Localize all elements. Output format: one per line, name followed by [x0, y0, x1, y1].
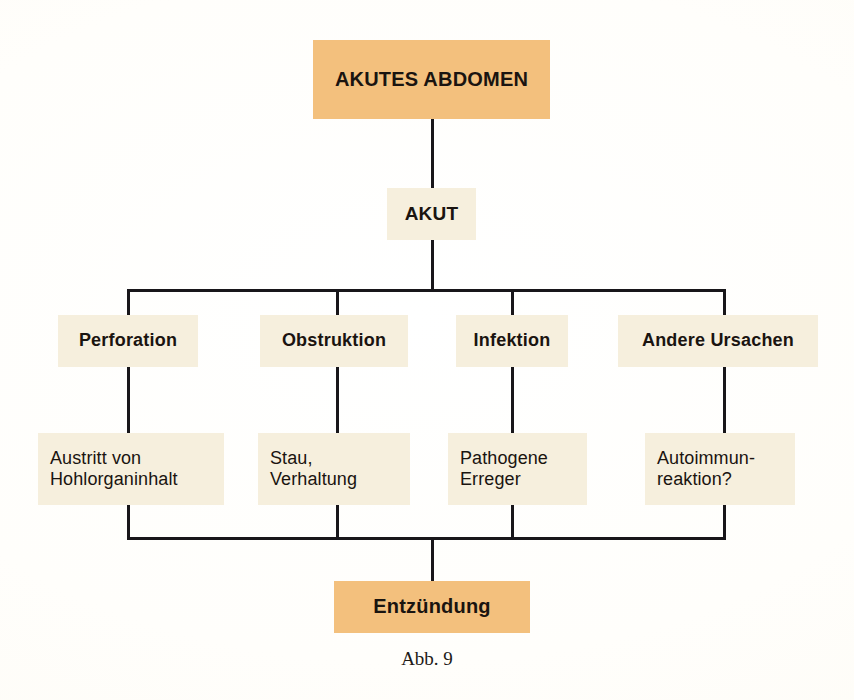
figure-caption: Abb. 9 [0, 648, 854, 670]
node-perforation-label: Perforation [79, 330, 177, 351]
connector-bus-top [127, 289, 726, 292]
connector-bus-to-outcome [431, 537, 434, 582]
node-pathogene-erreger[interactable]: Pathogene Erreger [448, 433, 587, 505]
connector-bus-drop-2 [336, 289, 339, 316]
node-infektion-label: Infektion [474, 330, 551, 351]
node-entzuendung-label: Entzündung [373, 595, 491, 619]
node-autoimmunreaktion[interactable]: Autoimmun- reaktion? [645, 433, 795, 505]
node-austritt-von-hohlorganinhalt[interactable]: Austritt von Hohlorganinhalt [38, 433, 224, 505]
connector-detail-2-to-bus [336, 505, 339, 540]
node-akut-label: AKUT [405, 203, 459, 225]
connector-bus-drop-1 [127, 289, 130, 316]
connector-detail-3-to-bus [511, 505, 514, 540]
connector-category-2-to-detail-2 [336, 366, 339, 434]
node-akutes-abdomen[interactable]: AKUTES ABDOMEN [313, 40, 550, 119]
connector-root-to-stage [431, 118, 434, 190]
connector-detail-1-to-bus [127, 505, 130, 540]
connector-bus-drop-4 [723, 289, 726, 316]
connector-category-4-to-detail-4 [723, 366, 726, 434]
figure-canvas: AKUTES ABDOMEN AKUT Perforation Obstrukt… [0, 0, 854, 700]
node-stau-verhaltung-label: Stau, Verhaltung [270, 448, 357, 490]
node-pathogene-erreger-label: Pathogene Erreger [460, 448, 548, 490]
node-entzuendung[interactable]: Entzündung [334, 581, 530, 633]
node-akutes-abdomen-label: AKUTES ABDOMEN [335, 68, 528, 92]
node-infektion[interactable]: Infektion [456, 315, 568, 367]
connector-stage-to-bus [431, 240, 434, 290]
connector-category-3-to-detail-3 [511, 366, 514, 434]
node-andere-ursachen[interactable]: Andere Ursachen [618, 315, 818, 367]
connector-category-1-to-detail-1 [127, 366, 130, 434]
node-stau-verhaltung[interactable]: Stau, Verhaltung [258, 433, 410, 505]
figure-caption-text: Abb. 9 [401, 648, 453, 669]
node-andere-ursachen-label: Andere Ursachen [642, 330, 794, 351]
node-obstruktion[interactable]: Obstruktion [260, 315, 408, 367]
connector-bus-drop-3 [511, 289, 514, 316]
node-perforation[interactable]: Perforation [58, 315, 198, 367]
node-akut[interactable]: AKUT [387, 188, 476, 240]
node-austritt-von-hohlorganinhalt-label: Austritt von Hohlorganinhalt [50, 448, 178, 490]
node-obstruktion-label: Obstruktion [282, 330, 386, 351]
node-autoimmunreaktion-label: Autoimmun- reaktion? [657, 448, 755, 490]
connector-detail-4-to-bus [723, 505, 726, 540]
connector-bus-bottom [127, 537, 726, 540]
